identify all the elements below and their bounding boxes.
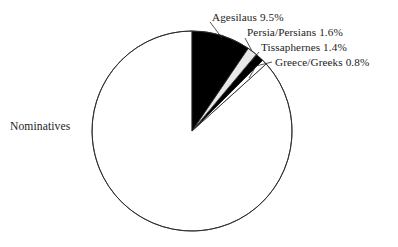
- pie-label-tissaphernes: Tissaphernes 1.4%: [261, 41, 347, 54]
- pie-label-greece-greeks: Greece/Greeks 0.8%: [275, 56, 369, 69]
- pie-chart: Agesilaus 9.5% Persia/Persians 1.6% Tiss…: [0, 0, 398, 247]
- pie-label-nominatives: Nominatives: [10, 120, 70, 133]
- pie-label-persia-persians: Persia/Persians 1.6%: [247, 26, 343, 39]
- pie-label-agesilaus: Agesilaus 9.5%: [212, 11, 284, 24]
